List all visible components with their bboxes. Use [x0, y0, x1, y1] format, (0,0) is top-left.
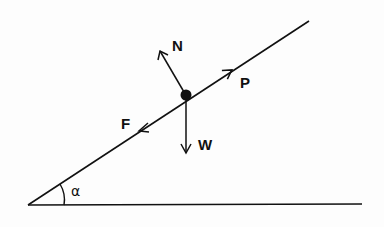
angle-arc	[60, 184, 65, 205]
ground-line	[28, 204, 362, 205]
particle-dot	[181, 90, 192, 101]
label-friction: F	[121, 116, 130, 131]
label-angle: α	[71, 184, 80, 198]
label-push: P	[240, 75, 250, 90]
normal-force-arrow	[158, 51, 184, 92]
inclined-plane-diagram: N P F W α	[0, 0, 384, 227]
weight-arrow	[181, 100, 191, 153]
diagram-graphics	[0, 0, 384, 227]
label-weight: W	[198, 137, 212, 152]
label-normal: N	[172, 38, 183, 53]
incline-line	[28, 21, 309, 205]
